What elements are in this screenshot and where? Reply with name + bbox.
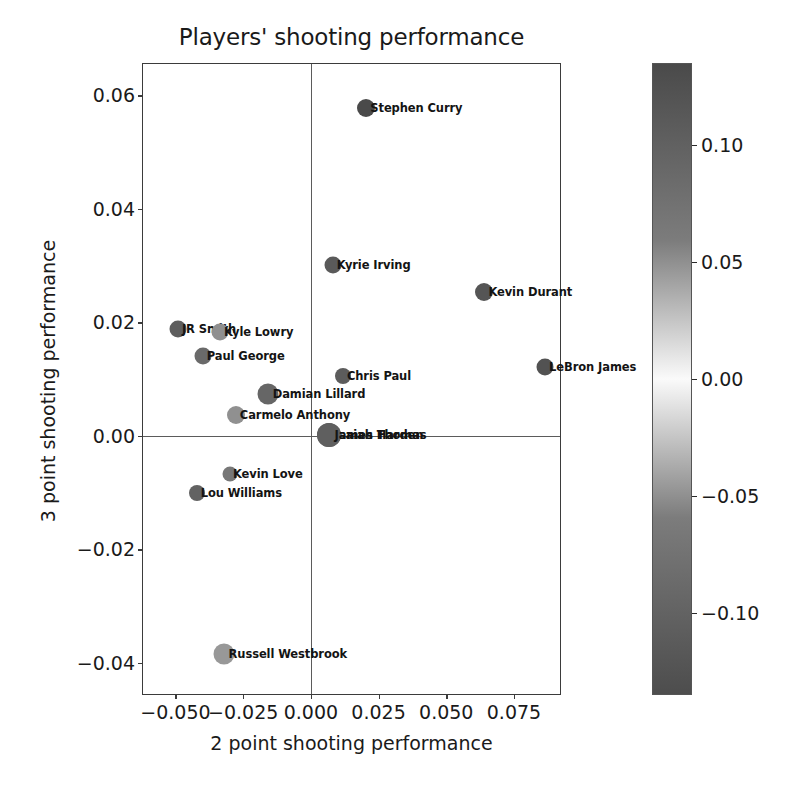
x-axis-tick-label: −0.025 <box>208 701 278 723</box>
y-axis-tick-label: 0.02 <box>93 311 135 333</box>
y-axis-tick <box>138 663 143 664</box>
x-axis-tick <box>446 694 447 699</box>
scatter-point-label: Kevin Love <box>233 467 303 481</box>
x-axis-tick <box>175 694 176 699</box>
scatter-point-label: Damian Lillard <box>273 387 366 401</box>
chart-title: Players' shooting performance <box>142 24 561 50</box>
colorbar-tick-label: 0.00 <box>701 368 743 390</box>
x-axis-tick-label: 0.075 <box>487 701 541 723</box>
x-axis-label: 2 point shooting performance <box>142 732 561 754</box>
scatter-point-label: James Harden <box>335 428 424 442</box>
scatter-point-label: Lou Williams <box>201 486 282 500</box>
x-axis-tick-label: 0.025 <box>351 701 405 723</box>
x-axis-tick <box>311 694 312 699</box>
colorbar-tick <box>692 145 697 146</box>
colorbar-tick <box>692 613 697 614</box>
y-axis-tick-label: 0.06 <box>93 84 135 106</box>
y-axis-label: 3 point shooting performance <box>37 121 59 641</box>
scatter-point-label: Chris Paul <box>347 369 411 383</box>
y-axis-tick-label: −0.02 <box>77 538 135 560</box>
colorbar-tick-label: 0.10 <box>701 134 743 156</box>
x-axis-tick <box>379 694 380 699</box>
colorbar-tick-label: −0.05 <box>701 485 759 507</box>
y-axis-tick <box>138 549 143 550</box>
colorbar-tick <box>692 496 697 497</box>
scatter-point-label: Stephen Curry <box>370 101 462 115</box>
x-axis-tick <box>243 694 244 699</box>
scatter-point-label: Kyrie Irving <box>337 258 411 272</box>
scatter-point-label: Kevin Durant <box>488 285 572 299</box>
figure-canvas: Players' shooting performance Stephen Cu… <box>0 0 789 790</box>
scatter-point-label: Kyle Lowry <box>224 325 293 339</box>
y-axis-tick-label: 0.00 <box>93 425 135 447</box>
colorbar[interactable]: −0.10−0.050.000.050.10 <box>652 63 692 695</box>
colorbar-tick-label: 0.05 <box>701 251 743 273</box>
colorbar-tick <box>692 262 697 263</box>
reference-line-vertical <box>311 64 312 694</box>
y-axis-tick <box>138 209 143 210</box>
y-axis-tick <box>138 322 143 323</box>
colorbar-gradient <box>652 63 692 695</box>
y-axis-tick <box>138 436 143 437</box>
plot-axes[interactable]: Stephen CurryKyrie IrvingKevin DurantJR … <box>142 63 561 695</box>
y-axis-tick-label: 0.04 <box>93 198 135 220</box>
x-axis-tick-label: −0.050 <box>140 701 210 723</box>
x-axis-tick-label: 0.050 <box>419 701 473 723</box>
scatter-plot-canvas: Stephen CurryKyrie IrvingKevin DurantJR … <box>143 64 560 694</box>
y-axis-tick-label: −0.04 <box>77 652 135 674</box>
colorbar-tick <box>692 379 697 380</box>
scatter-point-label: Russell Westbrook <box>229 647 348 661</box>
colorbar-tick-label: −0.10 <box>701 602 759 624</box>
y-axis-tick <box>138 95 143 96</box>
scatter-point-label: Paul George <box>207 349 285 363</box>
x-axis-tick <box>514 694 515 699</box>
scatter-point-label: LeBron James <box>549 360 636 374</box>
scatter-point-label: Carmelo Anthony <box>240 408 350 422</box>
x-axis-tick-label: 0.000 <box>284 701 338 723</box>
